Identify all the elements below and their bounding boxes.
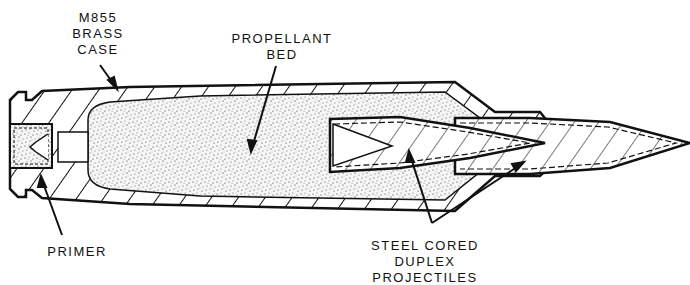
label-line: PROJECTILES	[355, 270, 495, 285]
label-projectiles: STEEL CORED DUPLEX PROJECTILES	[355, 238, 495, 285]
label-line: PROPELLANT	[222, 31, 342, 47]
label-line: BED	[222, 47, 342, 63]
label-line: BRASS	[58, 26, 138, 42]
label-brass-case: M855 BRASS CASE	[58, 10, 138, 58]
label-line: CASE	[58, 42, 138, 58]
label-primer: PRIMER	[42, 244, 112, 260]
label-propellant-bed: PROPELLANT BED	[222, 31, 342, 63]
label-line: M855	[58, 10, 138, 26]
flash-hole	[58, 132, 88, 162]
primer	[10, 124, 52, 168]
label-line: STEEL CORED	[355, 238, 495, 254]
label-line: DUPLEX	[355, 254, 495, 270]
label-line: PRIMER	[42, 244, 112, 260]
